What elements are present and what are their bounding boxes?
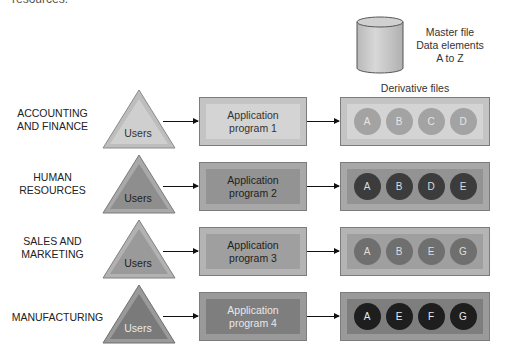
program-line: program 1: [227, 122, 278, 135]
department-line: MARKETING: [5, 248, 100, 261]
derivative-files-box: A B D E: [340, 162, 490, 211]
application-program-box: Applicationprogram 4: [199, 292, 307, 341]
users-triangle-icon: [102, 284, 176, 344]
department-label: MANUFACTURING: [5, 311, 110, 324]
arrow-users-to-program: [163, 186, 198, 187]
application-program-box: Applicationprogram 3: [199, 227, 307, 276]
master-file-cylinder-icon: [355, 16, 405, 76]
department-line: AND FINANCE: [5, 120, 100, 133]
program-line: Application: [227, 174, 278, 187]
department-line: MANUFACTURING: [5, 311, 110, 324]
department-label: HUMAN RESOURCES: [5, 171, 100, 196]
data-element-circle: G: [450, 238, 477, 265]
data-element-circle: A: [354, 108, 381, 135]
department-line: SALES AND: [5, 235, 100, 248]
arrow-users-to-program: [163, 251, 198, 252]
program-line: Application: [227, 109, 278, 122]
data-element-circle: A: [354, 238, 381, 265]
data-element-circle: C: [418, 108, 445, 135]
program-line: program 3: [227, 252, 278, 265]
data-element-circle: A: [354, 303, 381, 330]
derivative-files-box: A B E G: [340, 227, 490, 276]
department-label: SALES AND MARKETING: [5, 235, 100, 260]
data-element-circle: B: [386, 173, 413, 200]
master-file-label: Master file Data elements A to Z: [415, 26, 485, 65]
data-element-circle: G: [450, 303, 477, 330]
users-triangle-icon: [102, 219, 176, 279]
master-file-line-3: A to Z: [415, 52, 485, 65]
arrow-users-to-program: [163, 316, 198, 317]
data-element-circle: E: [450, 173, 477, 200]
data-element-circle: E: [418, 238, 445, 265]
data-element-circle: D: [418, 173, 445, 200]
arrow-program-to-files: [307, 316, 339, 317]
department-label: ACCOUNTING AND FINANCE: [5, 107, 100, 132]
derivative-files-title: Derivative files: [340, 82, 490, 94]
arrow-program-to-files: [307, 121, 339, 122]
data-element-circle: B: [386, 238, 413, 265]
users-triangle-icon: [102, 154, 176, 214]
users-label: Users: [102, 257, 174, 269]
users-label: Users: [102, 192, 174, 204]
data-element-circle: F: [418, 303, 445, 330]
program-line: Application: [227, 239, 278, 252]
program-line: Application: [227, 304, 278, 317]
arrow-users-to-program: [163, 121, 198, 122]
master-file-line-2: Data elements: [415, 39, 485, 52]
users-label: Users: [102, 322, 174, 334]
users-label: Users: [102, 127, 174, 139]
department-line: HUMAN: [5, 171, 100, 184]
data-element-circle: B: [386, 108, 413, 135]
derivative-files-box: A E F G: [340, 292, 490, 341]
data-element-circle: A: [354, 173, 381, 200]
arrow-program-to-files: [307, 186, 339, 187]
derivative-files-box: A B C D: [340, 97, 490, 146]
master-file-line-1: Master file: [415, 26, 485, 39]
program-line: program 4: [227, 317, 278, 330]
program-line: program 2: [227, 187, 278, 200]
users-triangle-icon: [102, 89, 176, 149]
application-program-box: Applicationprogram 1: [199, 97, 307, 146]
data-element-circle: D: [450, 108, 477, 135]
application-program-box: Applicationprogram 2: [199, 162, 307, 211]
department-line: RESOURCES: [5, 184, 100, 197]
department-line: ACCOUNTING: [5, 107, 100, 120]
caption-fragment: resources.: [12, 0, 68, 6]
arrow-program-to-files: [307, 251, 339, 252]
data-element-circle: E: [386, 303, 413, 330]
